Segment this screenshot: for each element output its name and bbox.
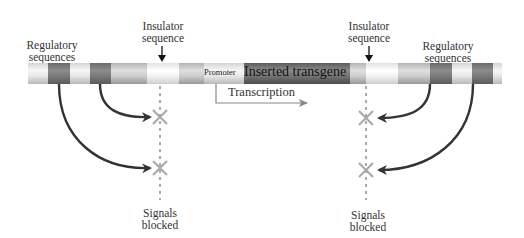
regulatory-signal-arrow-icon xyxy=(100,84,150,117)
insulator-pointer-arrow-icon xyxy=(365,46,373,62)
regulatory-signal-arrow-icon xyxy=(379,84,473,170)
insulator-diagram: Regulatory sequences Insulator sequence … xyxy=(0,0,524,238)
transcription-arrow-icon xyxy=(216,84,307,103)
insulator-pointer-arrow-icon xyxy=(158,46,166,62)
diagram-overlay xyxy=(0,0,524,238)
regulatory-signal-arrow-icon xyxy=(59,84,150,168)
regulatory-signal-arrow-icon xyxy=(379,84,430,118)
